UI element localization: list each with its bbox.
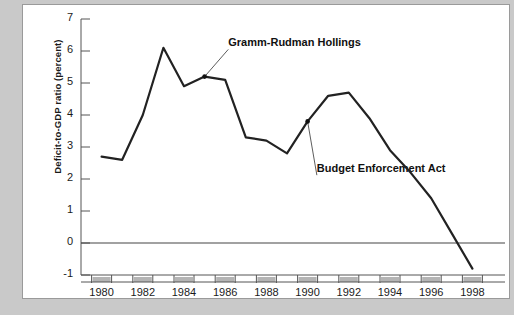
chart-axes [81, 19, 505, 275]
data-line-series [102, 48, 473, 269]
chart-panel: Deficit-to-GDP ratio (percent) 76543210-… [22, 4, 510, 299]
annotation-leaders [202, 49, 317, 175]
chart-plot-area [23, 5, 511, 300]
chart-figure: Deficit-to-GDP ratio (percent) 76543210-… [0, 0, 514, 315]
